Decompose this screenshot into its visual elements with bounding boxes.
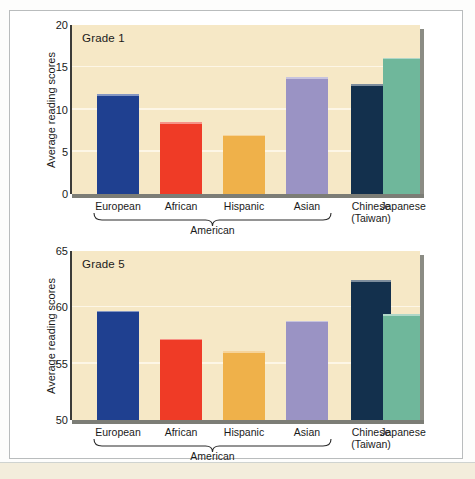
- panel-title: Grade 5: [82, 258, 125, 270]
- bar-3: [223, 135, 265, 194]
- x-tick-label: African: [165, 200, 198, 212]
- y-axis-line: [70, 251, 72, 420]
- x-tick-label: Japanese: [380, 200, 426, 212]
- group-bracket: [72, 213, 420, 227]
- bar-1: [97, 311, 139, 420]
- bar-1: [97, 94, 139, 194]
- y-axis-line: [70, 25, 72, 194]
- bar-2: [160, 122, 202, 194]
- chart-panel-grade-1: Grade 105101520Average reading scoresEur…: [10, 13, 464, 233]
- chart-panel-grade-5: Grade 550556065Average reading scoresEur…: [10, 239, 464, 457]
- y-axis-title: Average reading scores: [45, 35, 57, 185]
- bar-top-highlight: [223, 135, 265, 137]
- bar-3: [223, 351, 265, 420]
- bar-top-highlight: [383, 58, 420, 60]
- bar-top-highlight: [223, 351, 265, 353]
- bar-6: [383, 314, 420, 420]
- y-axis-title-holder: Average reading scores: [20, 25, 40, 194]
- group-bracket-label: American: [190, 224, 234, 236]
- bar-top-highlight: [286, 321, 328, 323]
- bar-top-highlight: [160, 122, 202, 124]
- group-bracket-icon: [72, 213, 420, 227]
- page-bottom-strip: [0, 462, 475, 479]
- bar-6: [383, 58, 420, 194]
- x-tick-label: Japanese: [380, 426, 426, 438]
- bar-top-highlight: [286, 77, 328, 79]
- y-tick-label: 0: [42, 188, 68, 200]
- x-tick-label: African: [165, 426, 198, 438]
- bar-top-highlight: [97, 311, 139, 313]
- x-tick-label: Hispanic: [224, 200, 264, 212]
- bar-top-highlight: [383, 314, 420, 316]
- y-tick-label: 20: [42, 19, 68, 31]
- bar-top-highlight: [160, 339, 202, 341]
- bar-top-highlight: [97, 94, 139, 96]
- gridline: [72, 66, 420, 68]
- group-bracket-icon: [72, 439, 420, 453]
- x-tick-label: Asian: [294, 426, 320, 438]
- plot-background: Grade 1: [72, 25, 420, 194]
- plot-area: Grade 5: [72, 251, 420, 420]
- plot-background: Grade 5: [72, 251, 420, 420]
- plot-area: Grade 1: [72, 25, 420, 194]
- figure-frame: Grade 105101520Average reading scoresEur…: [9, 10, 463, 459]
- bar-top-highlight: [351, 280, 391, 282]
- bar-4: [286, 77, 328, 194]
- y-tick-label: 65: [42, 245, 68, 257]
- y-tick-label: 50: [42, 414, 68, 426]
- x-tick-label: Hispanic: [224, 426, 264, 438]
- group-bracket-label: American: [190, 450, 234, 462]
- bar-4: [286, 321, 328, 420]
- x-tick-label: Asian: [294, 200, 320, 212]
- x-tick-label: European: [95, 200, 141, 212]
- x-tick-label: European: [95, 426, 141, 438]
- panel-title: Grade 1: [82, 32, 125, 44]
- y-axis-title: Average reading scores: [45, 261, 57, 411]
- bar-2: [160, 339, 202, 420]
- group-bracket: [72, 439, 420, 453]
- y-axis-title-holder: Average reading scores: [20, 251, 40, 420]
